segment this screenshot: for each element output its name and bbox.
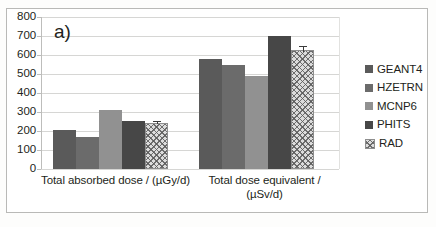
legend-swatch-mcnp6-icon bbox=[365, 102, 373, 110]
bar-rad-group2 bbox=[291, 50, 314, 169]
y-axis-tick-labels: 0100200300400500600700800 bbox=[0, 17, 36, 169]
y-tick-label-300: 300 bbox=[17, 106, 36, 118]
bar-hzetrn-group2 bbox=[222, 65, 245, 169]
legend-label-geant4: GEANT4 bbox=[377, 64, 422, 76]
plot-area bbox=[41, 17, 339, 169]
gridline-0 bbox=[41, 169, 339, 170]
legend-label-phits: PHITS bbox=[377, 119, 410, 131]
legend-label-mcnp6: MCNP6 bbox=[377, 101, 417, 113]
x-axis-label-group-2: Total dose equivalent /(µSv/d) bbox=[190, 174, 339, 201]
bar-mcnp6-group1 bbox=[99, 110, 122, 169]
bar-rad-group1 bbox=[145, 123, 168, 169]
error-bar-rad-group2 bbox=[303, 47, 304, 52]
y-tick-label-500: 500 bbox=[17, 68, 36, 80]
y-tick-label-100: 100 bbox=[17, 144, 36, 156]
legend-item-geant4[interactable]: GEANT4 bbox=[365, 60, 431, 79]
legend-label-rad: RAD bbox=[379, 138, 403, 150]
bar-geant4-group1 bbox=[53, 130, 76, 169]
legend-label-hzetrn: HZETRN bbox=[377, 82, 423, 94]
legend: GEANT4HZETRNMCNP6PHITSRAD bbox=[365, 60, 431, 153]
plot-right-edge bbox=[339, 17, 340, 169]
legend-item-phits[interactable]: PHITS bbox=[365, 116, 431, 135]
y-tick-label-600: 600 bbox=[17, 49, 36, 61]
legend-item-hzetrn[interactable]: HZETRN bbox=[365, 79, 431, 98]
y-tick-label-800: 800 bbox=[17, 11, 36, 23]
x-label-line: Total absorbed dose / (µGy/d) bbox=[41, 174, 190, 188]
y-tick-label-200: 200 bbox=[17, 125, 36, 137]
y-tick-label-0: 0 bbox=[30, 163, 36, 175]
y-tick-0 bbox=[37, 169, 41, 170]
y-tick-label-400: 400 bbox=[17, 87, 36, 99]
error-bar-cap-rad-group2 bbox=[299, 46, 307, 47]
bar-group-2 bbox=[199, 17, 314, 169]
bar-phits-group2 bbox=[268, 36, 291, 169]
x-axis-category-labels: Total absorbed dose / (µGy/d)Total dose … bbox=[41, 174, 339, 208]
legend-swatch-hzetrn-icon bbox=[365, 84, 373, 92]
x-label-line: Total dose equivalent / bbox=[190, 174, 339, 188]
panel-letter: a) bbox=[54, 22, 71, 41]
x-label-line: (µSv/d) bbox=[190, 188, 339, 202]
legend-item-mcnp6[interactable]: MCNP6 bbox=[365, 97, 431, 116]
legend-swatch-rad-icon bbox=[365, 139, 375, 149]
error-bar-rad-group1 bbox=[157, 122, 158, 124]
bars-container bbox=[41, 17, 339, 169]
y-axis-line bbox=[41, 17, 42, 169]
x-axis-label-group-1: Total absorbed dose / (µGy/d) bbox=[41, 174, 190, 188]
bar-phits-group1 bbox=[122, 121, 145, 169]
bar-mcnp6-group2 bbox=[245, 76, 268, 169]
legend-item-rad[interactable]: RAD bbox=[365, 134, 431, 153]
error-bar-cap-rad-group1 bbox=[153, 121, 161, 122]
bar-hzetrn-group1 bbox=[76, 137, 99, 169]
bar-geant4-group2 bbox=[199, 59, 222, 169]
legend-swatch-phits-icon bbox=[365, 121, 373, 129]
y-tick-label-700: 700 bbox=[17, 30, 36, 42]
figure-panel-a: 0100200300400500600700800 a) Total absor… bbox=[0, 0, 436, 227]
legend-swatch-geant4-icon bbox=[365, 65, 373, 73]
